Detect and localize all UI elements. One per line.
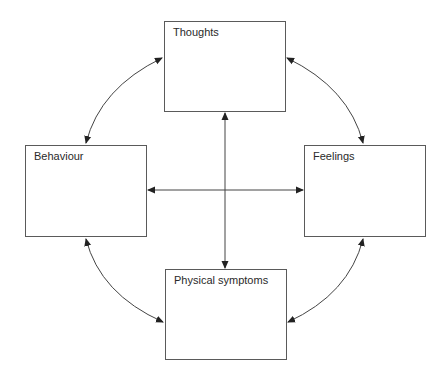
cbt-cycle-diagram: Thoughts Behaviour Feelings Physical sym… xyxy=(0,0,447,372)
node-label-physical-symptoms: Physical symptoms xyxy=(174,274,268,286)
arrow-thoughts-feelings xyxy=(287,58,363,143)
arrow-behaviour-physical xyxy=(86,239,163,322)
node-label-behaviour: Behaviour xyxy=(34,150,84,162)
node-behaviour: Behaviour xyxy=(25,145,147,237)
node-thoughts: Thoughts xyxy=(164,21,286,112)
arrow-feelings-physical xyxy=(288,239,363,322)
node-label-feelings: Feelings xyxy=(313,150,355,162)
node-physical-symptoms: Physical symptoms xyxy=(165,269,287,360)
node-feelings: Feelings xyxy=(304,145,426,237)
node-label-thoughts: Thoughts xyxy=(173,26,219,38)
arrow-thoughts-behaviour xyxy=(86,58,162,143)
